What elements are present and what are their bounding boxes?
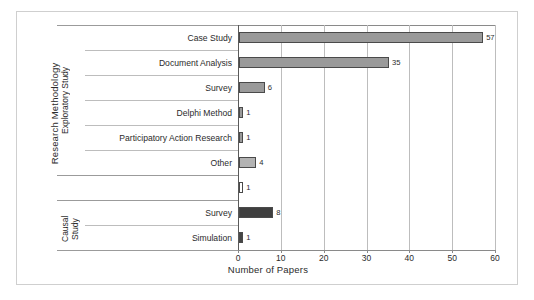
- bar-blank-6[interactable]: [239, 182, 243, 193]
- y-axis-title: Research Methodology: [49, 14, 60, 214]
- bar-value-label-2: 6: [268, 84, 272, 92]
- x-tick-label-50: 50: [447, 253, 456, 263]
- bar-document-analysis-1[interactable]: [239, 57, 389, 68]
- bar-other-5[interactable]: [239, 157, 256, 168]
- bar-delphi-method-3[interactable]: [239, 107, 243, 118]
- x-tick-label-40: 40: [405, 253, 414, 263]
- bar-survey-2[interactable]: [239, 82, 265, 93]
- category-label-case-study-0: Case Study: [188, 33, 232, 43]
- x-tick-label-60: 60: [490, 253, 499, 263]
- x-tick-label-20: 20: [319, 253, 328, 263]
- row-separator: [85, 75, 238, 76]
- bar-value-label-7: 8: [276, 209, 280, 217]
- chart-frame: Research Methodology Number of Papers Ex…: [16, 11, 518, 285]
- x-tick-label-0: 0: [236, 253, 241, 263]
- bar-case-study-0[interactable]: [239, 32, 483, 43]
- bar-value-label-5: 4: [259, 159, 263, 167]
- bar-value-label-3: 1: [246, 109, 250, 117]
- bar-value-label-8: 1: [246, 234, 250, 242]
- category-label-simulation-8: Simulation: [192, 233, 232, 243]
- group-separator-bottom: [57, 250, 238, 251]
- bar-participatory-action-research-4[interactable]: [239, 132, 243, 143]
- bar-simulation-8[interactable]: [239, 232, 243, 243]
- row-separator: [85, 125, 238, 126]
- gridline-50: [452, 25, 453, 250]
- x-tick-label-30: 30: [362, 253, 371, 263]
- group-label-exploratory-study: Exploratory Study: [61, 30, 83, 170]
- category-label-other-5: Other: [211, 158, 233, 168]
- bar-value-label-6: 1: [246, 184, 250, 192]
- row-separator: [85, 150, 238, 151]
- category-label-participatory-action-research-4: Participatory Action Research: [119, 133, 232, 143]
- row-separator: [85, 50, 238, 51]
- gridline-60: [495, 25, 496, 250]
- category-label-delphi-method-3: Delphi Method: [177, 108, 232, 118]
- row-separator: [85, 100, 238, 101]
- group-column-divider: [85, 25, 86, 250]
- category-label-survey-7: Survey: [205, 208, 232, 218]
- row-separator: [85, 225, 238, 226]
- bar-value-label-1: 35: [392, 59, 400, 67]
- bar-value-label-0: 57: [486, 34, 494, 42]
- bar-value-label-4: 1: [246, 134, 250, 142]
- gridline-40: [409, 25, 410, 250]
- bar-survey-7[interactable]: [239, 207, 273, 218]
- x-axis-title: Number of Papers: [17, 264, 519, 275]
- category-label-document-analysis-1: Document Analysis: [159, 58, 232, 68]
- x-tick-label-10: 10: [276, 253, 285, 263]
- category-label-survey-2: Survey: [205, 83, 232, 93]
